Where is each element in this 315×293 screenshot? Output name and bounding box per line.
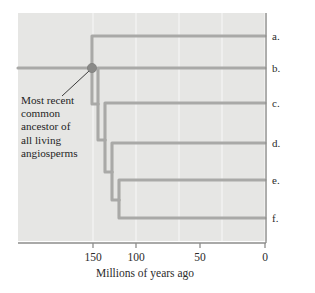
- branch-f: [119, 200, 265, 218]
- tip-label-d: d.: [272, 138, 280, 149]
- axis-tick-label-0: 0: [262, 252, 268, 264]
- branch-b: [98, 68, 265, 104]
- mrca-annotation: Most recent common ancestor of all livin…: [21, 94, 78, 160]
- tip-label-e: e.: [272, 175, 280, 186]
- annotation-line-5: angiosperms: [21, 147, 78, 160]
- axis-tick-label-150: 150: [84, 252, 101, 264]
- x-axis: [18, 243, 266, 248]
- branch-d: [112, 143, 265, 172]
- annotation-line-1: Most recent: [21, 94, 78, 107]
- branch-e: [119, 180, 265, 200]
- annotation-line-4: all living: [21, 134, 78, 147]
- axis-tick-label-100: 100: [127, 252, 144, 264]
- tip-label-f: f.: [272, 213, 278, 224]
- axis-tick-label-50: 50: [194, 252, 206, 264]
- x-axis-title: Millions of years ago: [0, 268, 290, 280]
- annotation-line-3: ancestor of: [21, 120, 78, 133]
- tip-label-a: a.: [272, 31, 280, 42]
- annotation-line-2: common: [21, 107, 78, 120]
- tip-label-c: c.: [272, 98, 280, 109]
- root-node-marker: [87, 63, 96, 72]
- phylogenetic-tree-figure: Most recent common ancestor of all livin…: [0, 0, 315, 293]
- tip-label-b: b.: [272, 63, 280, 74]
- annotation-leader-line: [62, 71, 89, 96]
- branch-c: [105, 103, 265, 140]
